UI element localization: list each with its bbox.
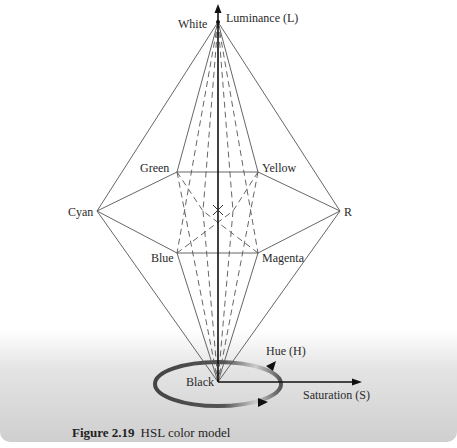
saturation-axis: [218, 379, 362, 386]
saturation-axis-label: Saturation (S): [303, 389, 370, 401]
vertex-label-black: Black: [186, 376, 214, 388]
vertex-label-yellow: Yellow: [262, 162, 296, 174]
luminance-axis: [215, 4, 222, 382]
vertex-label-cyan: Cyan: [68, 206, 93, 218]
vertex-label-red: R: [344, 206, 352, 218]
luminance-axis-label: Luminance (L): [226, 12, 298, 24]
figure-title: HSL color model: [141, 425, 231, 440]
vertex-label-blue: Blue: [151, 252, 174, 264]
hsl-double-cone-diagram: [0, 0, 457, 448]
vertex-label-magenta: Magenta: [262, 252, 304, 264]
figure-number: Figure 2.19: [72, 425, 135, 440]
hue-axis-label: Hue (H): [266, 345, 306, 357]
vertex-label-white: White: [178, 18, 207, 30]
figure-caption: Figure 2.19HSL color model: [72, 425, 230, 441]
vertex-label-green: Green: [140, 162, 169, 174]
